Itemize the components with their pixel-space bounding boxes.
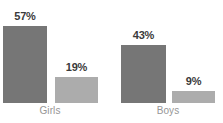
bar-girls-primary[interactable] xyxy=(3,26,47,103)
bar-boys-secondary[interactable] xyxy=(172,91,215,103)
bar-value-label: 19% xyxy=(66,61,87,74)
bar-value-label: 9% xyxy=(186,75,202,88)
plot-area: 57% 19% 43% 9% xyxy=(0,0,223,103)
bar-group-boys: 43% 9% xyxy=(118,0,223,103)
category-label-girls: Girls xyxy=(39,104,60,117)
bar-boys-primary[interactable] xyxy=(121,45,166,103)
bar-value-label: 43% xyxy=(133,29,154,42)
bar-group-girls: 57% 19% xyxy=(0,0,101,103)
category-label-boys: Boys xyxy=(157,104,180,117)
bar-girls-secondary[interactable] xyxy=(55,77,98,103)
bar-value-label: 57% xyxy=(14,10,35,23)
bar-chart: 57% 19% 43% 9% Girls Boys xyxy=(0,0,223,123)
